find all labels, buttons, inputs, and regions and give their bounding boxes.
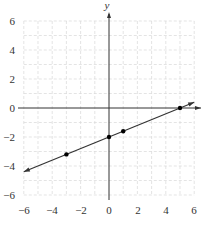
x-tick-label: 4 [163,204,169,216]
data-point [107,135,111,139]
line-chart: y −6 −4 −2 0 2 4 6 6 4 2 0 −2 −4 −6 [0,0,203,225]
y-tick-label: 4 [10,44,16,56]
x-axis-arrow-icon [195,106,201,110]
axes: y [18,0,201,200]
x-tick-label: 6 [191,204,197,216]
y-tick-label: 0 [10,102,16,114]
data-point [121,129,125,133]
y-tick-label: 6 [10,15,16,27]
y-tick-label: −4 [3,160,15,172]
y-tick-label: 2 [10,73,16,85]
data-point [64,152,68,156]
y-tick-labels: 6 4 2 0 −2 −4 −6 [3,15,15,201]
y-axis-arrow-icon [107,12,111,18]
x-tick-labels: −6 −4 −2 0 2 4 6 [18,204,197,216]
line-arrow-right-icon [188,102,194,106]
x-tick-label: 2 [135,204,141,216]
x-tick-label: −6 [18,204,30,216]
y-tick-label: −6 [3,189,15,201]
x-tick-label: −4 [46,204,58,216]
x-tick-label: −2 [75,204,87,216]
line-arrow-left-icon [24,167,30,171]
x-tick-label: 0 [106,204,112,216]
y-tick-label: −2 [3,131,15,143]
y-axis-label: y [104,0,110,11]
data-point [178,106,182,110]
